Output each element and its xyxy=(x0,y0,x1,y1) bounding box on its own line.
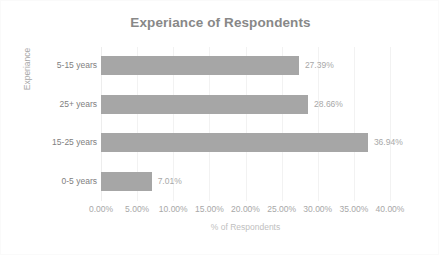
bar xyxy=(101,133,368,152)
bar-value-label: 27.39% xyxy=(305,57,334,74)
plot-area: 27.39%28.66%36.94%7.01% xyxy=(101,47,390,201)
x-axis-tick-label: 40.00% xyxy=(360,204,420,214)
bar-value-label: 36.94% xyxy=(374,134,403,151)
chart-container: Experiance of Respondents Experiance 5-1… xyxy=(0,0,439,255)
y-axis-tick-label: 0-5 years xyxy=(5,176,97,187)
bar xyxy=(101,95,308,114)
bar-row: 36.94% xyxy=(101,124,390,163)
y-axis-tick-label: 5-15 years xyxy=(5,60,97,71)
y-axis-tick-label: 15-25 years xyxy=(5,137,97,148)
y-axis-tick-label: 25+ years xyxy=(5,99,97,110)
bar-row: 28.66% xyxy=(101,86,390,125)
bar xyxy=(101,172,152,191)
x-axis-title: % of Respondents xyxy=(101,222,390,232)
bar-row: 27.39% xyxy=(101,47,390,86)
y-axis-tick-labels: 5-15 years25+ years15-25 years0-5 years xyxy=(3,47,97,201)
bar-value-label: 7.01% xyxy=(158,173,182,190)
chart-title: Experiance of Respondents xyxy=(1,15,439,30)
gridline xyxy=(390,47,391,201)
x-axis-tick-labels: 0.00%5.00%10.00%15.00%20.00%25.00%30.00%… xyxy=(101,204,390,218)
bar-value-label: 28.66% xyxy=(314,96,343,113)
bar-row: 7.01% xyxy=(101,163,390,202)
bar xyxy=(101,56,299,75)
